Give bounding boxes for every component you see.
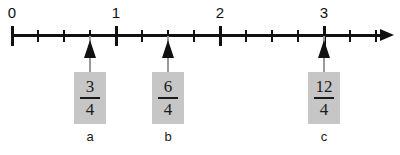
- major-tick: [219, 26, 222, 46]
- minor-tick: [193, 30, 195, 42]
- minor-tick: [297, 30, 299, 42]
- axis-tick-label: 0: [8, 5, 16, 20]
- fraction-card: 64: [152, 72, 184, 124]
- marker-arrow-icon: [84, 40, 96, 58]
- minor-tick: [271, 30, 273, 42]
- axis-tick-label: 1: [112, 5, 120, 20]
- marker-label: c: [321, 130, 328, 144]
- fraction-denominator: 4: [86, 100, 95, 119]
- minor-tick: [63, 30, 65, 42]
- fraction-bar: [80, 97, 100, 99]
- major-tick: [115, 26, 118, 46]
- axis-tick-label: 3: [320, 5, 328, 20]
- axis-tick-label: 2: [216, 5, 224, 20]
- minor-tick: [245, 30, 247, 42]
- fraction-card: 124: [308, 72, 340, 124]
- fraction-bar: [314, 97, 334, 99]
- major-tick: [11, 26, 14, 46]
- marker-arrow-icon: [162, 40, 174, 58]
- fraction-bar: [158, 97, 178, 99]
- minor-tick: [37, 30, 39, 42]
- minor-tick: [375, 30, 377, 42]
- marker-label: a: [86, 130, 93, 144]
- minor-tick: [141, 30, 143, 42]
- marker-arrow-icon: [318, 40, 330, 58]
- fraction-card: 34: [74, 72, 106, 124]
- fraction-numerator: 3: [86, 77, 95, 96]
- number-line-figure: 0123 34a64b124c: [0, 0, 400, 155]
- marker-label: b: [164, 130, 171, 144]
- fraction-numerator: 6: [164, 77, 173, 96]
- number-line-axis: [12, 34, 388, 37]
- fraction-numerator: 12: [316, 77, 333, 96]
- fraction-denominator: 4: [320, 100, 329, 119]
- axis-right-arrow-icon: [380, 29, 394, 41]
- minor-tick: [349, 30, 351, 42]
- fraction-denominator: 4: [164, 100, 173, 119]
